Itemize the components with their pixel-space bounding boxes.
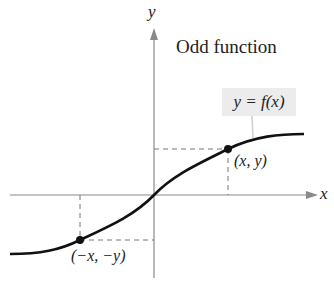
x-axis-arrow-icon bbox=[306, 191, 318, 199]
point-neg-x-neg-y bbox=[76, 236, 84, 244]
diagram-title: Odd function bbox=[176, 36, 277, 58]
function-label: y = f(x) bbox=[222, 88, 296, 116]
odd-function-graph bbox=[0, 0, 334, 293]
point-label-neg-x-neg-y: (−x, −y) bbox=[71, 247, 125, 265]
y-axis-arrow-icon bbox=[150, 28, 158, 40]
point-label-x-y: (x, y) bbox=[234, 152, 267, 170]
point-x-y bbox=[224, 145, 232, 153]
x-axis-label: x bbox=[320, 184, 328, 204]
label-leader bbox=[252, 116, 253, 138]
y-axis-label: y bbox=[148, 2, 156, 22]
